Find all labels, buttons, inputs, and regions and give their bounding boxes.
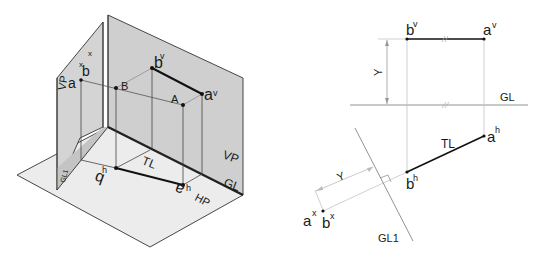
- ah-sup: h: [495, 125, 500, 135]
- bx-label: b: [82, 63, 90, 79]
- ah-sup: h: [186, 183, 191, 193]
- ax-label: a: [303, 212, 312, 229]
- point-A: [181, 103, 185, 107]
- orthographic-view: Y b v a v GL GL1 Y TL a h b h: [303, 19, 528, 244]
- av-sup: v: [213, 88, 218, 98]
- bh-sup: h: [413, 173, 418, 183]
- av-label: a: [483, 21, 492, 38]
- auxiliary-ground-line: [355, 128, 413, 241]
- ax-label: a: [68, 75, 76, 91]
- point-A-label: A: [171, 93, 179, 105]
- bx-sup: x: [330, 211, 335, 221]
- y-aux-dimension-label: Y: [335, 169, 347, 183]
- point-B: [114, 86, 118, 90]
- bv-sup: v: [160, 51, 165, 61]
- ax-sup: x: [312, 208, 317, 218]
- bx-sup: x: [88, 49, 92, 58]
- tl-label: TL: [441, 137, 455, 151]
- bv-sup: v: [413, 19, 418, 29]
- gl-label: GL: [500, 91, 515, 103]
- point-B-label: B: [121, 80, 128, 92]
- y-dimension-label: Y: [372, 68, 384, 76]
- av-label: a: [204, 86, 213, 103]
- gl1-label: GL1: [378, 232, 399, 244]
- av-sup: v: [492, 20, 497, 30]
- pictorial-view: VP a x b x B A b v a v VP GL GL1 b h TL …: [17, 15, 243, 247]
- auxiliary-projection-figure: VP a x b x B A b v a v VP GL GL1 b h TL …: [0, 0, 535, 255]
- bh-sup: h: [102, 165, 107, 175]
